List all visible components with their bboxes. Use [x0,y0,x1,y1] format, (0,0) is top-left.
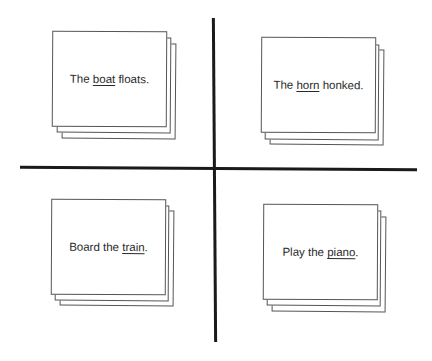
card-front: The boat floats. [52,31,168,128]
underlined-word: horn [296,79,319,91]
card-sentence: The horn honked. [273,79,363,91]
card-sentence: The boat floats. [70,73,149,85]
underlined-word: train [122,241,144,253]
horizontal-divider [20,166,417,171]
card-front: The horn honked. [261,37,377,134]
card-sentence: Play the piano. [282,246,358,258]
underlined-word: piano [327,246,355,258]
card-sentence: Board the train. [69,241,148,253]
card-front: Play the piano. [263,204,379,301]
card-front: Board the train. [51,199,167,296]
vertical-divider [212,18,217,342]
underlined-word: boat [93,73,115,85]
